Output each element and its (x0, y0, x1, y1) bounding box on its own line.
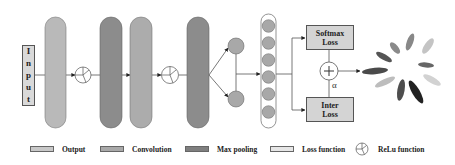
loss-function-swatch (270, 146, 294, 152)
input-letter: t (27, 95, 30, 104)
softmax-loss-line1: Softmax (316, 29, 344, 38)
legend: Output Convolution Max pooling Loss func… (0, 142, 455, 156)
max-pooling-swatch (185, 146, 209, 152)
relu-icon (75, 67, 91, 83)
input-letter: p (26, 71, 31, 80)
inter-loss-line2: Loss (322, 110, 338, 119)
input-letter: I (27, 47, 31, 56)
legend-label: Convolution (132, 145, 172, 154)
output-swatch (30, 146, 54, 152)
softmax-loss-line2: Loss (322, 38, 338, 47)
relu-icon (355, 142, 369, 156)
fully-connected-layer (261, 14, 276, 128)
legend-label: Output (62, 145, 85, 154)
maxpool-layer-pillar-2 (187, 17, 209, 128)
inter-loss-line1: Inter (321, 101, 338, 110)
legend-item-relu: ReLu function (355, 142, 424, 156)
input-box: I n p u t (22, 45, 35, 106)
legend-label: Max pooling (217, 145, 257, 154)
branch-node-bottom (228, 91, 244, 107)
conv-layer-pillar (130, 17, 152, 128)
input-letter: n (26, 59, 31, 68)
inter-loss-box: Inter Loss (306, 97, 354, 122)
legend-item-convolution: Convolution (100, 142, 172, 156)
relu-icon (162, 67, 179, 84)
input-letter: u (26, 83, 31, 92)
branch-node-top (228, 38, 244, 54)
sum-node (320, 62, 338, 80)
feature-cluster-visualization (362, 32, 442, 105)
legend-item-max-pooling: Max pooling (185, 142, 257, 156)
maxpool-layer-pillar-1 (100, 17, 122, 128)
output-layer-pillar (45, 17, 66, 128)
convolution-swatch (100, 146, 124, 152)
legend-label: Loss function (302, 145, 345, 154)
softmax-loss-box: Softmax Loss (306, 25, 354, 50)
legend-item-loss-function: Loss function (270, 142, 345, 156)
legend-item-output: Output (30, 142, 85, 156)
alpha-weight-label: α (332, 80, 337, 90)
network-diagram (0, 0, 455, 165)
legend-label: ReLu function (378, 145, 424, 154)
